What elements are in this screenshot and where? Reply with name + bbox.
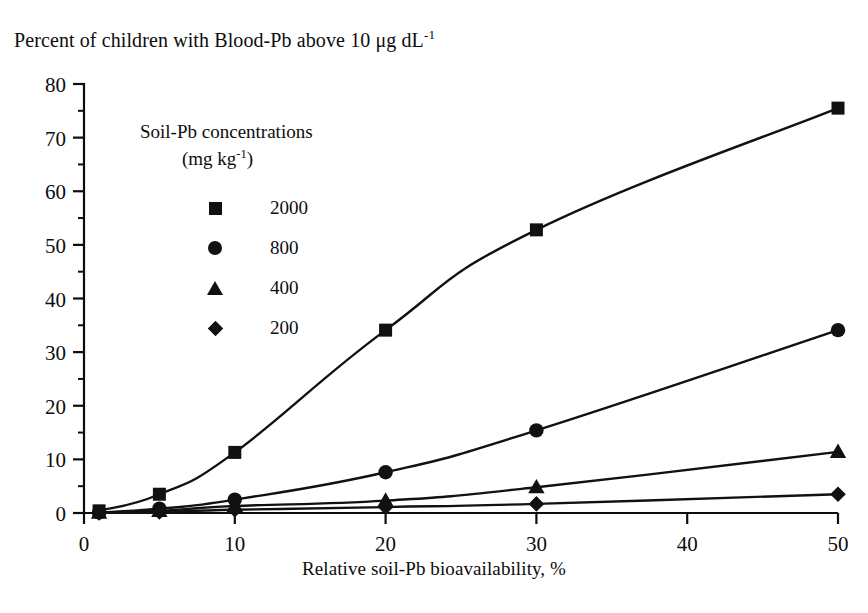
chart-figure: Percent of children with Blood-Pb above … — [0, 0, 868, 613]
tick-labels: 0102030405060708001020304050 — [45, 73, 849, 556]
data-point-800-30 — [529, 423, 543, 437]
series-400 — [91, 443, 846, 518]
plot-area: 0102030405060708001020304050 — [0, 0, 868, 613]
y-tick-label: 10 — [45, 448, 66, 472]
axes — [73, 83, 838, 524]
x-tick-label: 20 — [375, 532, 396, 556]
data-point-800-20 — [378, 465, 392, 479]
x-tick-label: 10 — [224, 532, 245, 556]
y-tick-label: 70 — [45, 127, 66, 151]
y-tick-label: 60 — [45, 180, 66, 204]
series-800 — [92, 323, 845, 520]
data-point-200-30 — [529, 496, 545, 512]
y-tick-label: 20 — [45, 395, 66, 419]
x-tick-label: 50 — [828, 532, 849, 556]
x-tick-label: 40 — [677, 532, 698, 556]
x-axis-title: Relative soil-Pb bioavailability, % — [0, 558, 868, 580]
data-point-2000-5 — [153, 488, 166, 501]
y-tick-label: 40 — [45, 288, 66, 312]
y-tick-label: 0 — [56, 502, 67, 526]
data-point-2000-50 — [832, 102, 845, 115]
data-point-200-10 — [227, 502, 243, 518]
y-tick-label: 50 — [45, 234, 66, 258]
data-point-2000-10 — [228, 446, 241, 459]
y-tick-label: 80 — [45, 73, 66, 97]
x-tick-label: 0 — [79, 532, 90, 556]
data-point-200-50 — [830, 486, 846, 502]
data-point-800-50 — [831, 323, 845, 337]
series-2000 — [93, 102, 845, 518]
series-line-800 — [99, 330, 838, 512]
data-series-layer — [91, 102, 846, 521]
y-tick-label: 30 — [45, 341, 66, 365]
data-point-400-50 — [830, 443, 846, 457]
data-point-2000-20 — [379, 324, 392, 337]
data-point-2000-30 — [530, 223, 543, 236]
x-tick-label: 30 — [526, 532, 547, 556]
